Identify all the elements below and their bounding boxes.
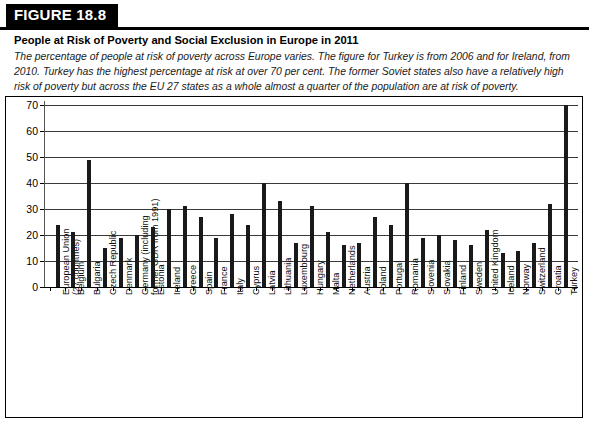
y-axis-tick-label: 60 xyxy=(26,125,38,137)
x-axis-tick-label: Spain xyxy=(205,272,214,296)
y-tick-mark xyxy=(40,287,44,288)
bar xyxy=(214,238,218,287)
x-axis-tick-label: France xyxy=(220,266,229,295)
x-tick-mark xyxy=(399,287,400,291)
y-axis-tick-label: 40 xyxy=(26,177,38,189)
x-tick-mark xyxy=(542,287,543,291)
bar xyxy=(421,238,425,287)
figure-container: FIGURE 18.8 People at Risk of Poverty an… xyxy=(0,0,589,424)
bar xyxy=(310,206,314,287)
x-tick-mark xyxy=(224,287,225,291)
bar xyxy=(294,243,298,287)
bar xyxy=(87,160,91,287)
x-tick-mark xyxy=(161,287,162,291)
y-axis-ticks: 010203040506070 xyxy=(12,97,38,417)
y-axis-tick-label: 0 xyxy=(32,281,38,293)
x-tick-mark xyxy=(526,287,527,291)
x-tick-mark xyxy=(145,287,146,291)
bar xyxy=(151,227,155,287)
x-tick-mark xyxy=(510,287,511,291)
x-tick-mark xyxy=(65,287,66,291)
gridline xyxy=(44,157,578,158)
gridline xyxy=(44,183,578,184)
x-axis-tick-label: Austria xyxy=(363,266,372,295)
figure-label: FIGURE 18.8 xyxy=(6,4,118,28)
bar xyxy=(485,230,489,287)
x-tick-mark xyxy=(447,287,448,291)
gridline xyxy=(44,105,578,106)
figure-caption: People at Risk of Poverty and Social Exc… xyxy=(14,33,574,94)
bar xyxy=(326,232,330,287)
bar xyxy=(278,201,282,287)
chart-frame: 010203040506070European Union (27 countr… xyxy=(5,96,583,418)
bar xyxy=(71,232,75,287)
x-tick-mark xyxy=(97,287,98,291)
y-axis-tick-label: 20 xyxy=(26,229,38,241)
bar xyxy=(548,204,552,287)
bar xyxy=(167,209,171,287)
gridline xyxy=(44,131,578,132)
x-tick-mark xyxy=(240,287,241,291)
y-axis-tick-label: 30 xyxy=(26,203,38,215)
bar xyxy=(135,235,139,287)
bar xyxy=(501,253,505,287)
bar xyxy=(246,225,250,287)
y-axis-line xyxy=(44,101,45,287)
x-tick-mark xyxy=(367,287,368,291)
bar xyxy=(437,235,441,287)
bar xyxy=(183,206,187,287)
x-tick-mark xyxy=(50,287,51,291)
x-tick-mark xyxy=(193,287,194,291)
bar xyxy=(373,217,377,287)
bar xyxy=(389,225,393,287)
y-axis-tick-label: 10 xyxy=(26,255,38,267)
x-tick-mark xyxy=(177,287,178,291)
bar xyxy=(405,183,409,287)
x-axis-tick-label: Czech Republic xyxy=(109,231,118,295)
x-axis-tick-label: Iceland xyxy=(507,265,516,295)
x-tick-mark xyxy=(81,287,82,291)
bar xyxy=(564,105,568,287)
x-tick-mark xyxy=(495,287,496,291)
x-axis-tick-label: Malta xyxy=(332,273,341,295)
x-tick-mark xyxy=(336,287,337,291)
x-tick-mark xyxy=(256,287,257,291)
bar xyxy=(199,217,203,287)
x-tick-mark xyxy=(320,287,321,291)
x-tick-mark xyxy=(272,287,273,291)
x-tick-mark xyxy=(574,287,575,291)
x-axis-tick-label: Latvia xyxy=(268,270,277,295)
x-tick-mark xyxy=(113,287,114,291)
bar xyxy=(532,243,536,287)
bar xyxy=(357,243,361,287)
x-tick-mark xyxy=(129,287,130,291)
bar xyxy=(230,214,234,287)
x-tick-mark xyxy=(431,287,432,291)
x-tick-mark xyxy=(288,287,289,291)
bar xyxy=(342,245,346,287)
y-axis-tick-label: 70 xyxy=(26,99,38,111)
x-axis-tick-label: United Kingdom xyxy=(491,230,500,295)
bar xyxy=(119,238,123,287)
figure-description: The percentage of people at risk of pove… xyxy=(14,50,574,94)
x-tick-mark xyxy=(479,287,480,291)
y-axis-tick-label: 50 xyxy=(26,151,38,163)
x-tick-mark xyxy=(558,287,559,291)
figure-header-rule xyxy=(0,27,589,30)
figure-title: People at Risk of Poverty and Social Exc… xyxy=(14,33,574,48)
bar xyxy=(56,225,60,287)
x-tick-mark xyxy=(463,287,464,291)
bar xyxy=(453,240,457,287)
x-tick-mark xyxy=(415,287,416,291)
x-tick-mark xyxy=(352,287,353,291)
bar xyxy=(516,251,520,287)
x-tick-mark xyxy=(208,287,209,291)
x-tick-mark xyxy=(304,287,305,291)
bar xyxy=(262,183,266,287)
x-tick-mark xyxy=(383,287,384,291)
bar-chart-plot: 010203040506070European Union (27 countr… xyxy=(6,97,582,417)
bar xyxy=(103,248,107,287)
bar xyxy=(469,245,473,287)
